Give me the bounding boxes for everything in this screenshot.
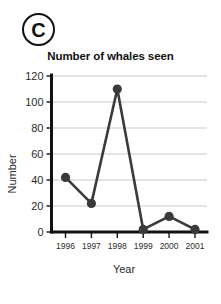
- y-tick-label: 20: [31, 200, 43, 212]
- data-point-marker: [165, 212, 174, 221]
- x-tick-label: 1999: [134, 241, 153, 251]
- y-axis-tick-labels: 020406080100120: [25, 70, 43, 238]
- data-point-marker: [61, 173, 70, 182]
- data-point-marker: [139, 225, 148, 234]
- y-tick-label: 40: [31, 174, 43, 186]
- y-tick-label: 60: [31, 148, 43, 160]
- x-tick-label: 1997: [82, 241, 101, 251]
- y-tick-label: 100: [25, 96, 43, 108]
- x-tick-label: 1996: [56, 241, 75, 251]
- y-axis-title: Number: [6, 154, 18, 193]
- y-tick-label: 80: [31, 122, 43, 134]
- y-tick-label: 0: [37, 226, 43, 238]
- data-point-marker: [113, 84, 122, 93]
- x-axis-tick-labels: 199619971998199920002001: [56, 241, 205, 251]
- x-tick-label: 2000: [160, 241, 179, 251]
- line-chart: 020406080100120 199619971998199920002001…: [0, 62, 221, 304]
- data-point-marker: [190, 225, 199, 234]
- y-tick-label: 120: [25, 70, 43, 82]
- panel-label-c: C: [22, 13, 55, 46]
- chart-title: Number of whales seen: [0, 50, 221, 62]
- x-tick-label: 2001: [186, 241, 205, 251]
- data-point-marker: [87, 199, 96, 208]
- data-series-line: [66, 89, 196, 229]
- x-tick-label: 1998: [108, 241, 127, 251]
- x-axis-title: Year: [113, 263, 136, 275]
- figure-panel: C Number of whales seen 020406080100120 …: [0, 0, 221, 304]
